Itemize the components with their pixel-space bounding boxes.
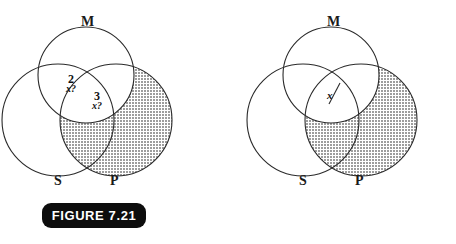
x-mark: x — [327, 89, 333, 101]
venn-diagram-7-22 — [228, 0, 456, 200]
circle-label-m: M — [327, 15, 340, 29]
circle-label-m: M — [81, 15, 94, 29]
smp-region-note: 3 x? — [88, 90, 106, 111]
venn-diagram-7-21 — [0, 0, 228, 200]
shaded-region-p-minus-m — [228, 0, 456, 200]
circle-label-p: P — [355, 174, 364, 188]
sm-region-quantifier: x? — [62, 84, 80, 94]
shaded-region-p-minus-m — [0, 0, 228, 200]
figure-7-22-panel: M S P x FIGURE 7.22 — [228, 0, 456, 244]
circle-label-s: S — [54, 174, 62, 188]
circle-label-s: S — [299, 174, 307, 188]
figure-7-21-panel: M S P 2 x? 3 x? FIGURE 7.21 — [0, 0, 228, 244]
figure-caption-7-21: FIGURE 7.21 — [42, 203, 146, 228]
sm-region-note: 2 x? — [62, 73, 80, 94]
venn-diagram-figure-pair: M S P 2 x? 3 x? FIGURE 7.21 — [0, 0, 456, 244]
circle-label-p: P — [110, 174, 119, 188]
smp-region-quantifier: x? — [88, 101, 106, 111]
